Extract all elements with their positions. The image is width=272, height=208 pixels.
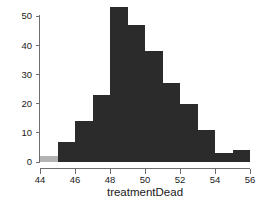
- y-tick-labels: 01020304050: [21, 10, 32, 167]
- histogram-bar: [145, 51, 163, 162]
- histogram-bar: [40, 156, 58, 162]
- bars-group: [40, 7, 250, 162]
- x-tick-label: 50: [140, 174, 151, 185]
- x-tick-label: 52: [175, 174, 186, 185]
- y-tick-marks: [36, 16, 40, 162]
- histogram-bar: [215, 153, 233, 162]
- x-tick-label: 48: [105, 174, 116, 185]
- y-tick-label: 20: [21, 98, 32, 109]
- histogram-figure: 01020304050 44464850525456 treatmentDead: [0, 0, 272, 208]
- histogram-bar: [198, 130, 216, 162]
- y-tick-label: 0: [27, 156, 32, 167]
- x-axis: 44464850525456: [35, 169, 256, 186]
- x-tick-label: 46: [70, 174, 81, 185]
- histogram-bar: [93, 95, 111, 162]
- x-tick-label: 44: [35, 174, 46, 185]
- histogram-bar: [110, 7, 128, 162]
- y-tick-label: 50: [21, 10, 32, 21]
- y-tick-label: 10: [21, 127, 32, 138]
- x-tick-label: 54: [210, 174, 221, 185]
- histogram-plot: 01020304050 44464850525456 treatmentDead: [0, 0, 272, 208]
- histogram-bar: [233, 150, 251, 162]
- x-axis-title: treatmentDead: [107, 186, 183, 198]
- y-axis: 01020304050: [21, 10, 39, 167]
- histogram-bar: [128, 25, 146, 162]
- y-tick-label: 30: [21, 69, 32, 80]
- x-tick-labels: 44464850525456: [35, 174, 256, 185]
- x-tick-marks: [40, 169, 250, 174]
- x-tick-label: 56: [245, 174, 256, 185]
- histogram-bar: [180, 104, 198, 162]
- histogram-bar: [75, 121, 93, 162]
- histogram-bar: [163, 83, 181, 162]
- histogram-bar: [58, 142, 76, 162]
- y-tick-label: 40: [21, 40, 32, 51]
